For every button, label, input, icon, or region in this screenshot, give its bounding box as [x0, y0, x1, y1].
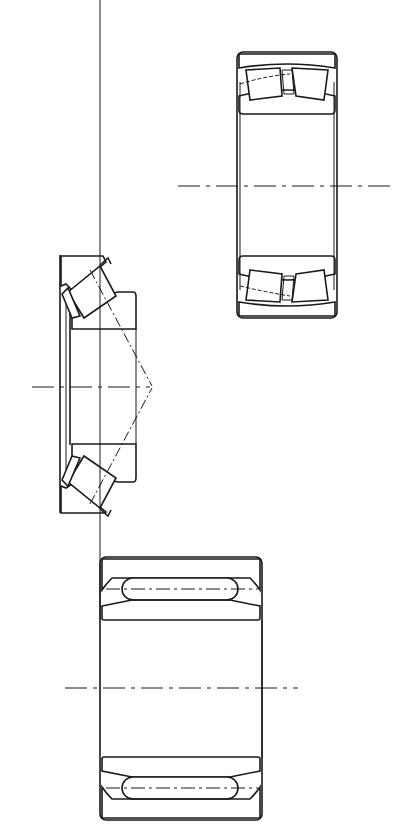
inner-ring-top: [102, 600, 260, 620]
spherical-roller-bearing: [178, 52, 392, 318]
bearing-drawing-canvas: [0, 0, 403, 831]
outer-ring-top: [239, 54, 335, 68]
outer-ring-bottom: [239, 302, 335, 316]
roller-top-left: [246, 68, 282, 100]
roller-bottom-left: [246, 270, 282, 302]
needle-roller-bearing: [65, 0, 298, 820]
pressure-line-bottom: [90, 388, 152, 504]
tapered-roller-bearing: [32, 255, 152, 516]
pressure-line-top: [90, 270, 152, 386]
roller-bottom-right: [292, 270, 328, 302]
inner-ring-bottom: [102, 757, 260, 777]
roller-top-right: [292, 68, 328, 100]
